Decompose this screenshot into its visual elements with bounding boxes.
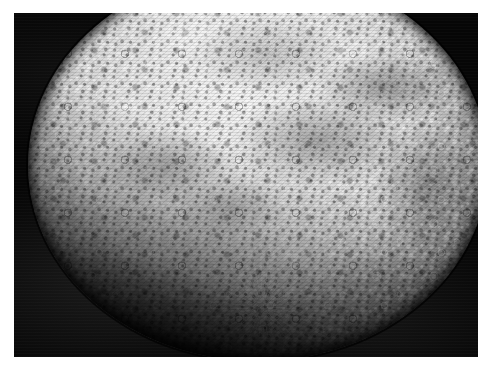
limb-softening xyxy=(26,13,478,357)
photo-caption xyxy=(0,0,1,1)
photo-alt-text: Photomosaic of the heavily cratered plan… xyxy=(0,0,1,1)
page-canvas: Photomosaic of the heavily cratered plan… xyxy=(0,0,495,376)
planet-disk xyxy=(28,13,478,357)
photo-plate xyxy=(14,13,478,357)
